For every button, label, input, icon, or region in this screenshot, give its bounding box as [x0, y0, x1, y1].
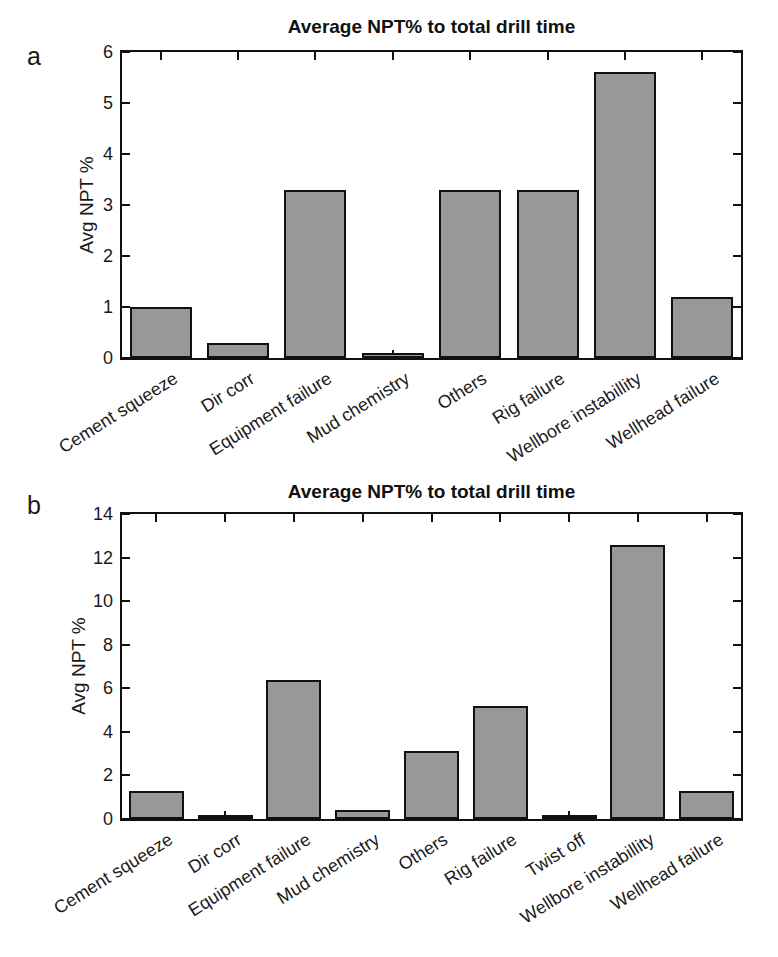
bar: [404, 751, 459, 819]
y-tick-mark: [122, 774, 130, 776]
y-tick-mark: [733, 51, 741, 53]
bar: [284, 190, 346, 358]
y-tick-label: 2: [103, 247, 113, 265]
x-tick-mark: [637, 514, 639, 522]
y-tick-label: 4: [103, 145, 113, 163]
y-tick-mark: [733, 818, 741, 820]
bar: [130, 307, 192, 358]
bar: [335, 810, 390, 819]
x-tick-label: Others: [434, 369, 489, 413]
y-tick-mark: [122, 644, 130, 646]
y-tick-label: 3: [103, 196, 113, 214]
bar: [594, 72, 656, 358]
bar: [610, 545, 665, 820]
bar: [207, 343, 269, 358]
y-tick-mark: [122, 153, 130, 155]
y-tick-mark: [122, 600, 130, 602]
y-tick-mark: [122, 513, 130, 515]
x-tick-mark: [568, 514, 570, 522]
bar: [362, 353, 424, 358]
x-tick-label: Rig failure: [442, 830, 520, 888]
x-tick-mark: [224, 514, 226, 522]
y-tick-mark: [733, 204, 741, 206]
y-tick-mark: [733, 255, 741, 257]
x-tick-mark: [160, 52, 162, 60]
x-tick-label: Wellbore instabillity: [505, 369, 645, 466]
y-tick-label: 0: [103, 349, 113, 367]
y-tick-label: 2: [103, 766, 113, 784]
x-tick-label: Equipment failure: [185, 830, 313, 920]
x-tick-mark: [499, 514, 501, 522]
x-tick-mark: [314, 52, 316, 60]
y-tick-mark: [733, 600, 741, 602]
bar: [439, 190, 501, 358]
plot-area-b: 02468101214Cement squeezeDir corrEquipme…: [120, 512, 743, 821]
bar: [542, 815, 597, 819]
x-tick-label: Dir corr: [185, 830, 245, 877]
y-tick-mark: [733, 687, 741, 689]
bar: [671, 297, 733, 358]
y-tick-label: 8: [103, 636, 113, 654]
y-tick-label: 10: [93, 592, 113, 610]
y-tick-label: 6: [103, 43, 113, 61]
bar: [198, 815, 253, 819]
bar: [266, 680, 321, 819]
plot-area-a: 0123456Cement squeezeDir corrEquipment f…: [120, 50, 743, 360]
x-tick-mark: [624, 52, 626, 60]
bar: [679, 791, 734, 819]
x-tick-label: Cement squeeze: [51, 830, 176, 917]
y-tick-mark: [122, 51, 130, 53]
panel-letter-a: a: [27, 42, 41, 71]
y-tick-label: 14: [93, 505, 113, 523]
x-tick-mark: [431, 514, 433, 522]
x-tick-mark: [392, 52, 394, 60]
y-tick-label: 0: [103, 810, 113, 828]
y-tick-label: 12: [93, 549, 113, 567]
y-tick-mark: [122, 557, 130, 559]
y-tick-mark: [733, 774, 741, 776]
x-tick-mark: [469, 52, 471, 60]
y-tick-mark: [122, 687, 130, 689]
chart-title-b: Average NPT% to total drill time: [120, 481, 743, 503]
y-tick-mark: [733, 153, 741, 155]
y-tick-mark: [122, 731, 130, 733]
x-tick-label: Cement squeeze: [55, 369, 180, 456]
bar: [517, 190, 579, 358]
y-tick-mark: [733, 513, 741, 515]
x-tick-label: Dir corr: [198, 369, 258, 416]
y-tick-mark: [122, 204, 130, 206]
y-tick-mark: [733, 644, 741, 646]
y-axis-label-a: Avg NPT %: [76, 156, 98, 254]
y-tick-label: 6: [103, 679, 113, 697]
y-tick-mark: [122, 255, 130, 257]
y-tick-label: 1: [103, 298, 113, 316]
y-tick-mark: [733, 557, 741, 559]
figure-page: a Average NPT% to total drill time Avg N…: [0, 0, 778, 957]
y-tick-mark: [733, 306, 741, 308]
x-tick-label: Others: [396, 830, 451, 874]
y-tick-mark: [733, 357, 741, 359]
x-tick-mark: [362, 514, 364, 522]
y-tick-mark: [733, 102, 741, 104]
bar: [473, 706, 528, 819]
y-tick-mark: [733, 731, 741, 733]
x-tick-mark: [293, 514, 295, 522]
x-tick-mark: [155, 514, 157, 522]
x-tick-mark: [701, 52, 703, 60]
x-tick-mark: [237, 52, 239, 60]
x-tick-mark: [547, 52, 549, 60]
panel-letter-b: b: [27, 491, 41, 520]
chart-title-a: Average NPT% to total drill time: [120, 16, 743, 38]
y-tick-mark: [122, 102, 130, 104]
y-tick-label: 4: [103, 723, 113, 741]
y-axis-label-b: Avg NPT %: [68, 617, 90, 715]
y-tick-label: 5: [103, 94, 113, 112]
bar: [129, 791, 184, 819]
x-tick-mark: [706, 514, 708, 522]
